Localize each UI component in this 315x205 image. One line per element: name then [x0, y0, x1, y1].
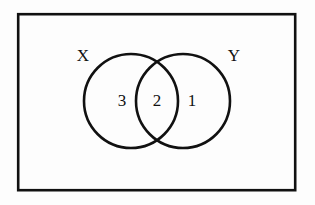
venn-diagram-figure: X Y 3 2 1: [0, 0, 315, 205]
set-label-y: Y: [228, 46, 240, 65]
region-count-x-only: 3: [118, 91, 127, 110]
set-circle-x: [84, 54, 178, 148]
set-circle-y: [136, 54, 230, 148]
venn-diagram-canvas: X Y 3 2 1: [0, 0, 315, 205]
set-label-x: X: [77, 46, 89, 65]
region-count-y-only: 1: [188, 91, 197, 110]
region-count-intersection: 2: [153, 91, 162, 110]
